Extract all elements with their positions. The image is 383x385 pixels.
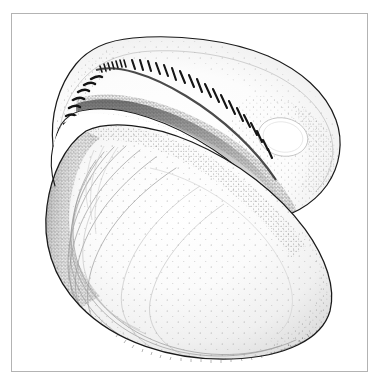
- bivalve-shell-illustration: Bivalve shell, interior hinge view Black…: [0, 0, 383, 385]
- illustration-canvas: Bivalve shell, interior hinge view Black…: [0, 0, 383, 385]
